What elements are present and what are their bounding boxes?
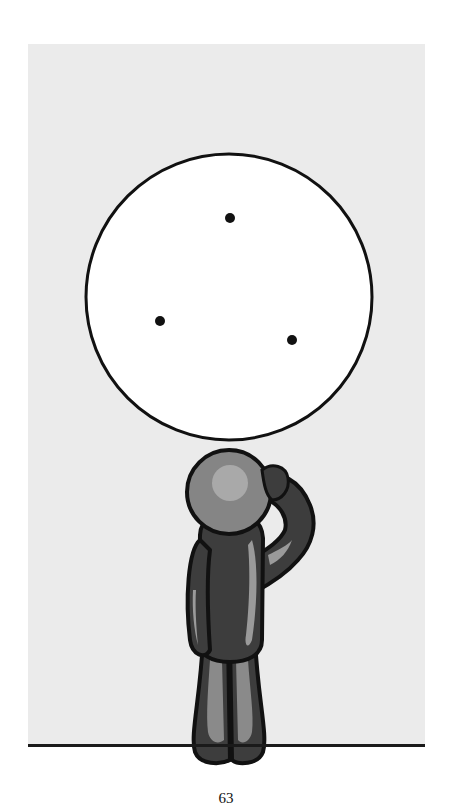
puzzled-figure xyxy=(187,450,314,763)
floor-line xyxy=(28,744,425,747)
figure-head-highlight xyxy=(212,465,248,501)
dot-top xyxy=(225,213,235,223)
figure-arm-left xyxy=(188,540,210,655)
thought-circle xyxy=(86,154,372,440)
dot-left xyxy=(155,316,165,326)
page-number: 63 xyxy=(0,790,452,807)
illustration-scene xyxy=(0,0,452,811)
dot-right xyxy=(287,335,297,345)
